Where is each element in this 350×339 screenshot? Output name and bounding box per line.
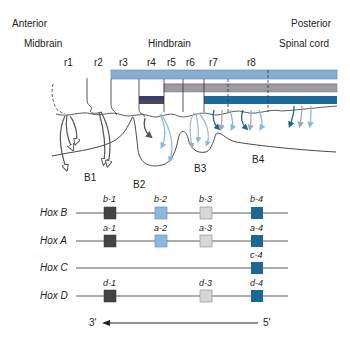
hoxc-expression-bar	[204, 96, 337, 104]
hindbrain-diagram	[0, 0, 350, 339]
gene-label-a-4: a-4	[250, 224, 263, 233]
gene-label-b-4: b-4	[250, 195, 263, 204]
arch-label-b4: B4	[252, 155, 264, 165]
gene-label-b-2: b-2	[154, 195, 167, 204]
arch-label-b1: B1	[84, 173, 96, 183]
cluster-label-hox-d: Hox D	[40, 291, 68, 301]
hox-gene-d-3	[200, 290, 212, 302]
hox-gene-b-2	[155, 207, 167, 219]
axis-label-5-prime: 5'	[263, 318, 270, 328]
hox-gene-b-3	[200, 207, 212, 219]
hoxb-expression-bar	[111, 70, 337, 79]
gene-label-d-1: d-1	[103, 279, 116, 288]
gene-label-d-4: d-4	[250, 279, 263, 288]
hoxa-expression-bar	[164, 84, 337, 92]
hox-gene-b-1	[104, 207, 116, 219]
cluster-label-hox-b: Hox B	[40, 208, 67, 218]
axis-label-3-prime: 3'	[89, 318, 96, 328]
cluster-label-hox-a: Hox A	[40, 236, 67, 246]
hox-gene-a-4	[251, 235, 263, 247]
cluster-label-hox-c: Hox C	[40, 263, 68, 273]
hox-gene-d-1	[104, 290, 116, 302]
hox-gene-a-1	[104, 235, 116, 247]
gene-label-a-2: a-2	[154, 224, 167, 233]
gene-label-b-3: b-3	[199, 195, 212, 204]
arch-label-b2: B2	[133, 180, 145, 190]
hox-gene-d-4	[251, 290, 263, 302]
gene-label-a-3: a-3	[199, 224, 212, 233]
arch-label-b3: B3	[194, 164, 206, 174]
hox-gene-c-4	[251, 262, 263, 274]
gene-label-d-3: d-3	[199, 279, 212, 288]
hox-gene-a-2	[155, 235, 167, 247]
gene-label-b-1: b-1	[103, 195, 116, 204]
gene-label-c-4: c-4	[250, 251, 263, 260]
r4-expression-bar	[139, 96, 164, 100]
gene-label-a-1: a-1	[103, 224, 116, 233]
hox-gene-a-3	[200, 235, 212, 247]
branchial-arches-outline	[52, 117, 336, 166]
hox-gene-b-4	[251, 207, 263, 219]
